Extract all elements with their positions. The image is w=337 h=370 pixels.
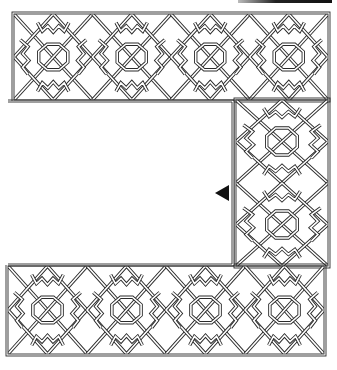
right-band (234, 98, 330, 268)
top-band (12, 12, 330, 102)
pattern-figure (0, 0, 337, 370)
inner-blank-area (0, 101, 234, 265)
left-pointing-marker-icon (215, 185, 229, 201)
bottom-band (6, 264, 326, 356)
strapwork-border-drawing (0, 0, 337, 370)
